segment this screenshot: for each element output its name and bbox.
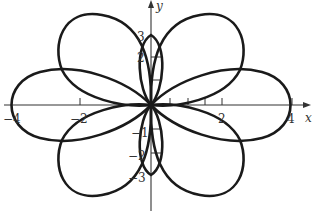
y-tick-label: −3 xyxy=(128,171,146,185)
y-axis-arrow-icon xyxy=(148,0,154,8)
y-tick-label: 3 xyxy=(137,30,145,44)
y-tick-label: −2 xyxy=(128,149,146,163)
y-tick-label: 2 xyxy=(137,51,145,65)
y-axis-label: y xyxy=(155,0,163,13)
x-axis-label: x xyxy=(305,111,312,125)
x-axis-arrow-icon xyxy=(303,102,311,108)
polar-flower-plot: −4 −2 2 4 3 2 −1 −2 −3 x y xyxy=(0,0,317,211)
x-tick-label: −4 xyxy=(3,112,21,126)
y-tick-label: −1 xyxy=(131,126,149,140)
x-tick-label: 4 xyxy=(287,112,295,126)
x-tick-labels: −4 −2 2 4 xyxy=(3,112,295,126)
x-tick-label: −2 xyxy=(70,112,88,126)
x-tick-label: 2 xyxy=(218,112,226,126)
